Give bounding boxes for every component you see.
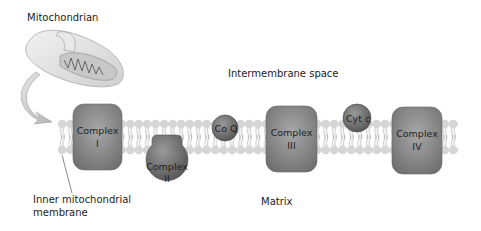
svg-text:Complex: Complex xyxy=(146,161,188,172)
complex-i: Complex I xyxy=(73,104,122,170)
svg-text:III: III xyxy=(287,140,295,151)
svg-text:IV: IV xyxy=(412,141,422,152)
matrix-label: Matrix xyxy=(261,196,292,208)
svg-text:Complex: Complex xyxy=(77,125,119,136)
zoom-arrow xyxy=(21,72,52,124)
svg-text:Complex: Complex xyxy=(396,128,438,139)
mitochondrion-label: Mitochondrian xyxy=(27,12,98,24)
coenzyme-q: Co Q xyxy=(212,115,238,141)
mitochondrion-illustration xyxy=(26,30,124,87)
svg-text:Co Q: Co Q xyxy=(215,123,238,134)
complex-ii: Complex II xyxy=(146,135,188,184)
inner-membrane-label-line2: membrane xyxy=(33,207,88,219)
svg-text:II: II xyxy=(164,173,170,184)
cytochrome-c: Cyt c xyxy=(343,104,371,132)
inner-membrane-pointer xyxy=(62,155,72,193)
intermembrane-space-label: Intermembrane space xyxy=(228,68,339,80)
svg-text:Complex: Complex xyxy=(271,127,313,138)
complex-iii: Complex III xyxy=(266,106,317,172)
svg-text:Cyt c: Cyt c xyxy=(346,113,370,124)
inner-membrane-label-line1: Inner mitochondrial xyxy=(33,194,131,206)
svg-text:I: I xyxy=(96,138,99,149)
complex-iv: Complex IV xyxy=(392,107,442,174)
